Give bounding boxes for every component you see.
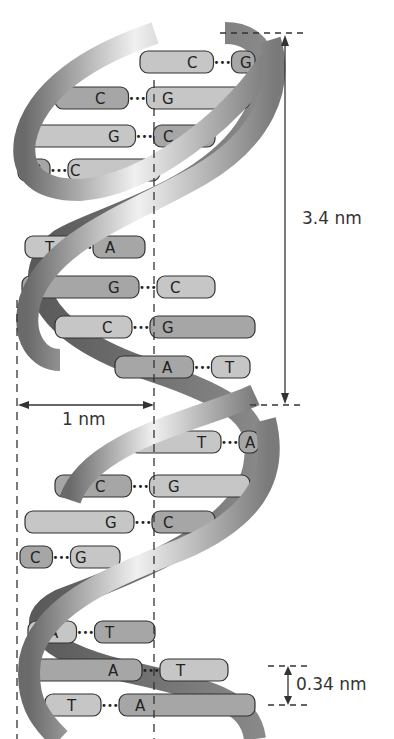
base-left (140, 51, 214, 73)
base-left-letter: C (95, 90, 105, 108)
base-left-letter: C (95, 478, 105, 496)
hydrogen-bond-dots: ••• (77, 627, 95, 638)
hydrogen-bond-dots: ••• (53, 552, 71, 563)
base-pair: CG••• (140, 51, 255, 73)
base-right-letter: A (135, 697, 146, 715)
base-left-letter: C (102, 319, 112, 337)
base-left-letter: A (108, 662, 119, 680)
base-right-letter: T (175, 662, 186, 680)
base-left-letter: C (30, 549, 40, 567)
base-left (25, 511, 134, 533)
hydrogen-bond-dots: ••• (134, 517, 152, 528)
radius-label: 1 nm (62, 409, 106, 429)
base-pair: AT••• (25, 659, 228, 681)
base-right-letter: C (170, 279, 180, 297)
base-pair: AT••• (115, 356, 250, 378)
front-ribbon-lower (29, 420, 269, 739)
base-left-letter: G (105, 514, 117, 532)
base-right (157, 276, 215, 298)
hydrogen-bond-dots: ••• (214, 57, 232, 68)
arrow-right-icon (143, 401, 154, 409)
base-right-letter: C (70, 162, 80, 180)
base-right-letter: G (168, 478, 180, 496)
pitch-label: 3.4 nm (302, 208, 362, 228)
base-left (25, 659, 142, 681)
hydrogen-bond-dots: ••• (132, 322, 150, 333)
base-right-letter: A (105, 239, 116, 257)
base-right-letter: T (224, 359, 235, 377)
base-right-letter: T (104, 624, 115, 642)
dna-double-helix-diagram: CG•••CG•••GC•••GC•••TA•••GC•••CG•••AT•••… (0, 0, 394, 739)
hydrogen-bond-dots: ••• (221, 437, 239, 448)
base-spacing-label: 0.34 nm (296, 674, 367, 694)
base-pair: CG••• (20, 546, 120, 568)
arrow-up-icon (281, 35, 289, 46)
hydrogen-bond-dots: ••• (142, 665, 160, 676)
base-right-letter: A (245, 434, 256, 452)
base-left-letter: C (187, 54, 197, 72)
hydrogen-bond-dots: ••• (136, 131, 154, 142)
base-pair: CG••• (55, 316, 255, 338)
base-right-letter: C (163, 514, 173, 532)
base-left-letter: T (66, 697, 77, 715)
hydrogen-bond-dots: ••• (50, 165, 68, 176)
base-pair: TA••• (45, 694, 255, 716)
small-arrow-up-icon (284, 666, 292, 675)
hydrogen-bond-dots: ••• (101, 700, 119, 711)
base-right-letter: G (162, 319, 174, 337)
base-left-letter: A (162, 359, 173, 377)
small-arrow-down-icon (284, 696, 292, 705)
hydrogen-bond-dots: ••• (132, 481, 150, 492)
arrow-left-icon (18, 401, 29, 409)
base-right (95, 621, 156, 643)
arrow-down-icon (281, 393, 289, 404)
base-right-letter: G (75, 549, 87, 567)
hydrogen-bond-dots: ••• (194, 362, 212, 373)
hydrogen-bond-dots: ••• (129, 93, 147, 104)
base-pair: GC••• (25, 511, 215, 533)
base-right (160, 659, 228, 681)
base-right (150, 475, 251, 497)
base-left-letter: G (108, 128, 120, 146)
base-left-letter: T (196, 434, 207, 452)
base-left-letter: G (108, 279, 120, 297)
base-left (55, 316, 132, 338)
base-right-letter: G (162, 90, 174, 108)
